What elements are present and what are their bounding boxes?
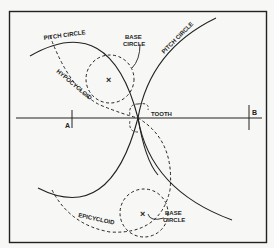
leader-base-circle-upper	[132, 44, 140, 68]
center-mark-upper: ×	[106, 75, 111, 85]
center-mark-lower: ×	[140, 209, 145, 219]
pitch-circle-right-arc	[138, 18, 232, 220]
label-base-upper-2: CIRCLE	[123, 41, 145, 47]
label-pitch-circle-right: PITCH CIRCLE	[160, 21, 194, 55]
label-b: B	[252, 109, 257, 116]
label-pitch-circle-upper: PITCH CIRCLE	[43, 29, 85, 41]
pitch-circle-upper-arc	[30, 42, 158, 175]
label-a: A	[65, 122, 70, 129]
label-base-lower-2: CIRCLE	[163, 217, 185, 223]
gear-tooth-diagram: × × PITCH CIRCLE PITCH CIRCLE BASE CIRCL…	[0, 0, 274, 248]
label-epicycloid: EPICYCLOID	[78, 212, 116, 226]
label-base-lower-1: BASE	[165, 210, 182, 216]
label-tooth: TOOTH	[151, 111, 172, 117]
label-base-upper-1: BASE	[125, 34, 142, 40]
label-hypocycloid: HYPOCYCLOID	[55, 68, 93, 101]
pitch-circle-lower-arc	[38, 118, 138, 198]
epicycloid-curve	[52, 118, 171, 232]
